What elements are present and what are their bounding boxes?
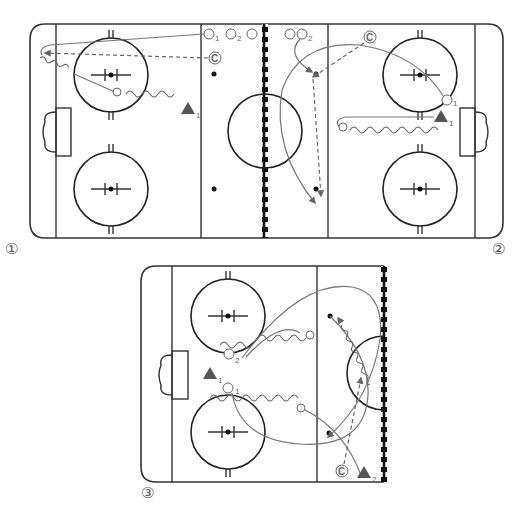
player-circle xyxy=(285,29,295,39)
player-number: 2 xyxy=(237,34,242,43)
player-circle xyxy=(297,29,307,39)
skate-path xyxy=(242,286,381,437)
center-line xyxy=(262,24,268,238)
puck-icon xyxy=(306,331,314,339)
player-circle xyxy=(204,29,214,39)
goal-right xyxy=(460,108,475,156)
diagram-1-2-rink xyxy=(30,24,503,238)
player-number: 2 xyxy=(308,34,313,43)
coach-label: C xyxy=(338,466,345,477)
coach-label: C xyxy=(211,53,218,64)
faceoff-circle-bottom xyxy=(191,395,265,477)
player-circle xyxy=(224,349,234,359)
player-circle xyxy=(442,95,452,105)
faceoff-circle-left-bottom xyxy=(74,144,148,234)
puck-icon xyxy=(113,88,121,96)
goal-crease xyxy=(159,355,172,395)
goal-crease-left xyxy=(43,112,56,152)
skate-path xyxy=(337,117,434,128)
skate-path xyxy=(74,74,115,92)
stickhandle-path xyxy=(39,56,69,69)
player-number: 2 xyxy=(235,356,240,365)
skate-path xyxy=(41,34,204,55)
diagram-2-drill: 2 C 1 1 xyxy=(280,29,458,203)
diagram-number-3: ③ xyxy=(141,484,154,502)
player-number: 1 xyxy=(196,111,201,120)
stickhandle-path xyxy=(126,91,174,97)
player-circle xyxy=(226,29,236,39)
goal-left xyxy=(56,108,71,156)
faceoff-circle-right-top xyxy=(383,30,457,120)
neutral-dot xyxy=(212,72,217,77)
diagram-3-rink xyxy=(141,266,387,482)
puck-icon xyxy=(297,404,305,412)
faceoff-circle-right-bottom xyxy=(383,144,457,234)
player-number: 1 xyxy=(218,376,223,385)
diagram-number-1: ① xyxy=(5,240,18,258)
player-number: 1 xyxy=(215,34,220,43)
center-line xyxy=(381,266,387,482)
player-triangle-icon xyxy=(203,367,217,379)
faceoff-circle-top xyxy=(191,271,265,353)
diagram-number-2: ② xyxy=(492,240,505,258)
puck-icon xyxy=(339,123,347,131)
pass-path xyxy=(313,79,321,196)
pass-path xyxy=(45,53,208,58)
coach-label: C xyxy=(366,32,373,43)
neutral-dot xyxy=(314,187,319,192)
player-triangle-icon xyxy=(181,102,195,114)
skate-arrow xyxy=(338,318,341,322)
player-circle xyxy=(247,29,257,39)
stickhandle-path xyxy=(350,127,438,133)
goal xyxy=(172,351,188,399)
pass-path xyxy=(313,43,364,77)
skate-path xyxy=(280,45,445,203)
player-number: 1 xyxy=(453,99,458,108)
skate-path xyxy=(295,39,312,72)
goal-crease-right xyxy=(475,112,488,152)
player-triangle-icon xyxy=(434,110,448,122)
player-number: 1 xyxy=(449,119,454,128)
pass-path xyxy=(344,378,361,464)
faceoff-circle-left-top xyxy=(74,30,148,120)
stickhandle-path xyxy=(258,335,306,341)
neutral-dot xyxy=(212,187,217,192)
player-number: 2 xyxy=(372,475,377,484)
player-circle xyxy=(223,383,233,393)
player-number: 1 xyxy=(235,387,240,396)
